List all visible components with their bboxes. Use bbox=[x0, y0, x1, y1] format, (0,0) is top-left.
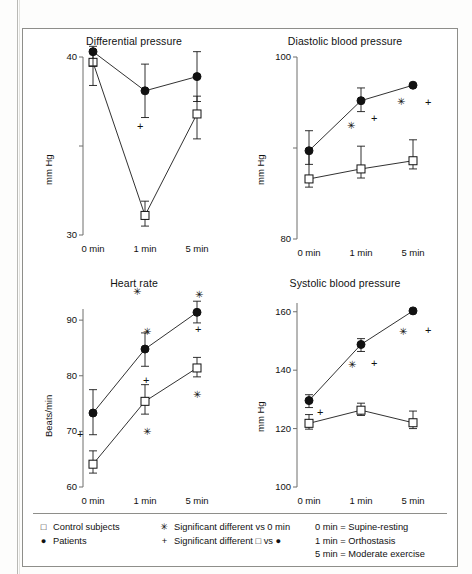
y-axis-tick-label: 60 bbox=[47, 481, 77, 492]
filled-circle-icon: ● bbox=[37, 535, 50, 549]
x-axis-tick-label: 0 min bbox=[69, 243, 117, 254]
significance-plus-marker: + bbox=[77, 429, 83, 440]
significance-asterisk-marker: ✳ bbox=[347, 121, 355, 131]
panel-heart-rate: Heart rate Beats/min 607080900 min1 min5… bbox=[31, 277, 237, 512]
significance-plus-marker: + bbox=[371, 358, 377, 369]
x-axis-tick-label: 0 min bbox=[285, 495, 333, 506]
significance-plus-marker: + bbox=[195, 324, 201, 335]
y-axis-tick-label: 80 bbox=[47, 370, 77, 381]
y-axis-tick-label: 90 bbox=[47, 314, 77, 325]
y-axis-tick-label: 100 bbox=[261, 51, 291, 62]
y-axis-tick-label: 100 bbox=[261, 481, 291, 492]
panel-differential-pressure: Differential pressure mm Hg 30400 min1 m… bbox=[31, 35, 237, 270]
y-axis-tick-label: 160 bbox=[261, 306, 291, 317]
significance-asterisk-marker: ✳ bbox=[348, 360, 356, 370]
y-axis-tick-label: 30 bbox=[47, 229, 77, 240]
legend-divider bbox=[33, 513, 447, 514]
legend-condition: 5 min = Moderate exercise bbox=[315, 548, 425, 562]
panel-diastolic-blood-pressure: Diastolic blood pressure mm Hg 801000 mi… bbox=[239, 35, 451, 270]
significance-plus-marker: + bbox=[143, 375, 149, 386]
legend-item: ✳ Significant different vs 0 min bbox=[158, 521, 290, 535]
y-axis-tick-label: 140 bbox=[261, 364, 291, 375]
legend-significance: ✳ Significant different vs 0 min + Signi… bbox=[158, 521, 290, 548]
significance-asterisk-marker: ✳ bbox=[195, 290, 203, 300]
significance-asterisk-marker: ✳ bbox=[193, 390, 201, 400]
significance-asterisk-marker: ✳ bbox=[399, 327, 407, 337]
page-scan-edge bbox=[17, 0, 18, 574]
legend-label: Control subjects bbox=[53, 521, 120, 535]
y-axis-tick-label: 120 bbox=[261, 423, 291, 434]
x-axis-tick-label: 5 min bbox=[173, 495, 221, 506]
significance-plus-marker: + bbox=[425, 97, 431, 108]
x-axis-tick-label: 1 min bbox=[121, 495, 169, 506]
significance-plus-marker: + bbox=[371, 113, 377, 124]
significance-plus-marker: + bbox=[425, 325, 431, 336]
legend-item: + Significant different □ vs ● bbox=[158, 535, 290, 549]
legend-condition: 1 min = Orthostasis bbox=[315, 535, 425, 549]
plot-area-heart-rate bbox=[31, 277, 237, 512]
legend-item: □ Control subjects bbox=[37, 521, 120, 535]
open-square-icon: □ bbox=[37, 521, 50, 535]
legend-label: Significant different □ vs ● bbox=[174, 535, 281, 549]
x-axis-tick-label: 5 min bbox=[389, 247, 437, 258]
significance-plus-marker: + bbox=[137, 121, 143, 132]
legend-conditions: 0 min = Supine-resting 1 min = Orthostas… bbox=[315, 521, 425, 562]
x-axis-tick-label: 0 min bbox=[69, 495, 117, 506]
x-axis-tick-label: 5 min bbox=[389, 495, 437, 506]
legend-series: □ Control subjects ● Patients bbox=[37, 521, 120, 548]
x-axis-tick-label: 1 min bbox=[337, 247, 385, 258]
y-axis-tick-label: 80 bbox=[261, 233, 291, 244]
significance-asterisk-marker: ✳ bbox=[143, 427, 151, 437]
x-axis-tick-label: 0 min bbox=[285, 247, 333, 258]
x-axis-tick-label: 1 min bbox=[121, 243, 169, 254]
significance-asterisk-marker: ✳ bbox=[143, 327, 151, 337]
x-axis-tick-label: 5 min bbox=[173, 243, 221, 254]
panel-systolic-blood-pressure: Systolic blood pressure mm Hg 1001201401… bbox=[239, 277, 451, 512]
y-axis-tick-label: 70 bbox=[47, 425, 77, 436]
plus-icon: + bbox=[158, 535, 171, 549]
significance-plus-marker: + bbox=[317, 407, 323, 418]
asterisk-icon: ✳ bbox=[158, 521, 171, 535]
legend-item: ● Patients bbox=[37, 535, 120, 549]
legend-label: Patients bbox=[53, 535, 87, 549]
legend-condition: 0 min = Supine-resting bbox=[315, 521, 425, 535]
page-scan-edge-inner bbox=[19, 0, 20, 574]
significance-asterisk-marker: ✳ bbox=[397, 97, 405, 107]
figure-frame: Differential pressure mm Hg 30400 min1 m… bbox=[22, 28, 458, 567]
y-axis-tick-label: 40 bbox=[47, 51, 77, 62]
legend-label: Significant different vs 0 min bbox=[174, 521, 290, 535]
x-axis-tick-label: 1 min bbox=[337, 495, 385, 506]
